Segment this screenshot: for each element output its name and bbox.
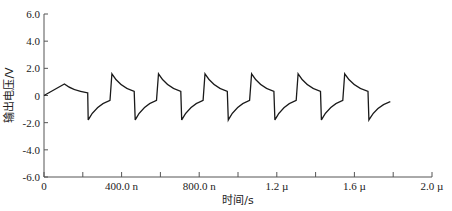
x-tick-label: 2.0 µ — [421, 180, 444, 192]
voltage-series-line — [44, 74, 390, 120]
y-tick-label: -6.0 — [23, 171, 41, 183]
y-axis-title: 输出电压/V — [2, 67, 16, 123]
y-tick-label: 4.0 — [26, 35, 40, 47]
y-tick-label: 6.0 — [26, 8, 40, 20]
x-axis-title: 时间/s — [222, 194, 254, 207]
voltage-chart: 6.04.02.00-2.0-4.0-6.00400.0 n800.0 n1.2… — [0, 0, 452, 211]
plot-area — [44, 74, 390, 120]
x-tick-label: 1.6 µ — [343, 180, 366, 192]
y-tick-label: -2.0 — [23, 117, 41, 129]
y-tick-label: 2.0 — [26, 62, 40, 74]
axes — [44, 14, 432, 177]
x-tick-label: 1.2 µ — [265, 180, 288, 192]
y-tick-label: 0 — [35, 90, 41, 102]
ticks: 6.04.02.00-2.0-4.0-6.00400.0 n800.0 n1.2… — [23, 8, 444, 192]
x-tick-label: 0 — [41, 180, 47, 192]
x-tick-label: 800.0 n — [183, 180, 217, 192]
y-tick-label: -4.0 — [23, 144, 41, 156]
x-tick-label: 400.0 n — [105, 180, 139, 192]
